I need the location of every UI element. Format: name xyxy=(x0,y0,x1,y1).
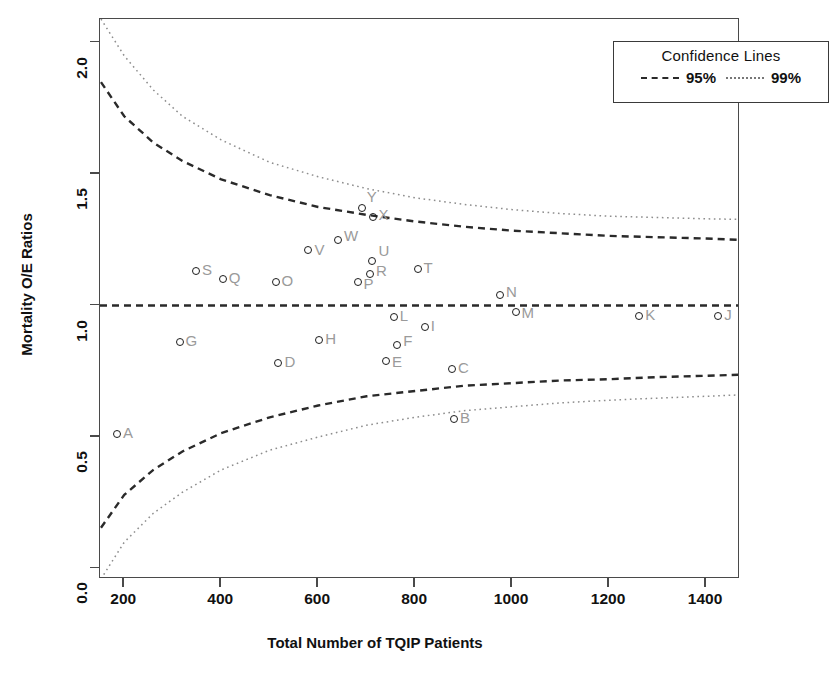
data-point-label-d: D xyxy=(284,353,295,370)
x-tick-label: 800 xyxy=(384,590,444,608)
x-tick-mark xyxy=(219,578,221,587)
data-point-label-h: H xyxy=(325,330,336,347)
legend-label-99: 99% xyxy=(771,69,801,86)
data-point-label-f: F xyxy=(403,332,412,349)
data-point-label-c: C xyxy=(458,359,469,376)
x-tick-label: 1000 xyxy=(481,590,541,608)
data-point-label-y: Y xyxy=(367,188,377,205)
data-point-label-t: T xyxy=(424,259,433,276)
legend-entry-95: 95% xyxy=(641,69,716,86)
legend-entries: 95% 99% xyxy=(614,69,828,86)
legend-entry-99: 99% xyxy=(726,69,801,86)
y-tick-mark xyxy=(90,41,99,43)
data-point-q xyxy=(219,275,227,283)
data-point-h xyxy=(315,336,323,344)
y-tick-mark xyxy=(90,435,99,437)
x-tick-label: 600 xyxy=(287,590,347,608)
x-tick-mark xyxy=(704,578,706,587)
data-point-b xyxy=(450,415,458,423)
data-point-label-x: X xyxy=(378,206,388,223)
dashed-line-icon xyxy=(641,77,679,79)
data-point-e xyxy=(382,357,390,365)
x-tick-mark xyxy=(510,578,512,587)
y-tick-mark xyxy=(90,172,99,174)
y-tick-label: 0.5 xyxy=(73,436,91,488)
dotted-line-icon xyxy=(726,77,764,79)
confidence-band-95-upper xyxy=(101,82,738,240)
data-point-label-e: E xyxy=(392,353,402,370)
data-point-c xyxy=(448,365,456,373)
confidence-band-95-lower xyxy=(101,375,738,528)
data-point-w xyxy=(334,236,342,244)
data-point-label-w: W xyxy=(344,227,358,244)
data-point-label-m: M xyxy=(522,304,535,321)
x-tick-mark xyxy=(607,578,609,587)
data-point-g xyxy=(176,338,184,346)
data-point-label-g: G xyxy=(186,332,198,349)
data-point-label-o: O xyxy=(282,272,294,289)
y-tick-label: 1.5 xyxy=(73,173,91,225)
y-axis-title: Mortality O/E Ratios xyxy=(18,85,35,485)
y-tick-label: 0.0 xyxy=(73,567,91,619)
x-tick-label: 1400 xyxy=(675,590,735,608)
data-point-label-b: B xyxy=(460,409,470,426)
x-tick-label: 1200 xyxy=(578,590,638,608)
y-tick-mark xyxy=(90,567,99,569)
data-point-label-a: A xyxy=(123,424,133,441)
x-tick-label: 400 xyxy=(190,590,250,608)
legend: Confidence Lines 95% 99% xyxy=(613,41,829,103)
legend-label-95: 95% xyxy=(686,69,716,86)
y-tick-label: 2.0 xyxy=(73,42,91,94)
data-point-t xyxy=(414,265,422,273)
data-point-label-l: L xyxy=(400,307,408,324)
x-tick-mark xyxy=(413,578,415,587)
data-point-i xyxy=(421,323,429,331)
x-axis-title: Total Number of TQIP Patients xyxy=(0,634,750,651)
data-point-label-i: I xyxy=(431,317,435,334)
data-point-label-u: U xyxy=(378,242,389,259)
x-tick-mark xyxy=(316,578,318,587)
data-point-o xyxy=(272,278,280,286)
data-point-label-v: V xyxy=(314,241,324,258)
data-point-label-n: N xyxy=(506,283,517,300)
x-tick-label: 200 xyxy=(93,590,153,608)
data-point-r xyxy=(366,270,374,278)
data-point-label-q: Q xyxy=(229,269,241,286)
y-tick-label: 1.0 xyxy=(73,305,91,357)
legend-title: Confidence Lines xyxy=(614,47,828,64)
plot-frame: ABCDEFGHIJKLMNOPQRSTUVWXY Confidence Lin… xyxy=(99,18,739,578)
data-point-label-s: S xyxy=(202,261,212,278)
x-tick-mark xyxy=(122,578,124,587)
y-tick-mark xyxy=(90,304,99,306)
data-point-label-j: J xyxy=(724,306,732,323)
data-point-n xyxy=(496,291,504,299)
data-point-m xyxy=(512,308,520,316)
confidence-band-99-lower xyxy=(101,395,738,577)
data-point-label-r: R xyxy=(376,262,387,279)
data-point-label-k: K xyxy=(645,306,655,323)
